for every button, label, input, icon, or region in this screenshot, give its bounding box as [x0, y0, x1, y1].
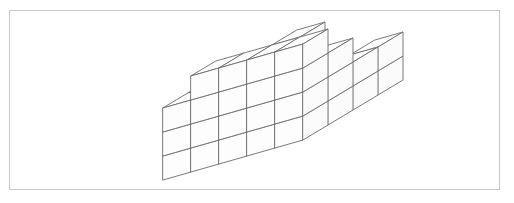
screenshot-root — [0, 0, 514, 203]
cube-stack-figure — [0, 0, 514, 203]
voxel-group — [163, 22, 403, 180]
